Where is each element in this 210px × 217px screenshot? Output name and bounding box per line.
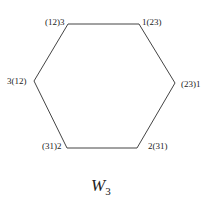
diagram-caption: W3: [91, 176, 111, 197]
vertex-label-right: (23)1: [181, 79, 201, 89]
vertex-label-top-right: 1(23): [142, 17, 162, 27]
vertex-label-top-left: (12)3: [45, 17, 65, 27]
vertex-label-bottom-right: 2(31): [148, 141, 168, 151]
vertex-label-bottom-left: (31)2: [42, 141, 62, 151]
vertex-label-left: 3(12): [7, 76, 27, 86]
